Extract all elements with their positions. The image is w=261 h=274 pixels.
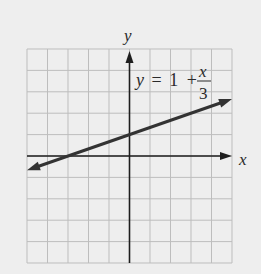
x-axis-label: x <box>238 150 247 169</box>
y-axis-label: y <box>122 26 132 45</box>
equation-constant: 1 <box>169 70 178 90</box>
equation-plus: + <box>187 70 197 90</box>
equation-equals: = <box>152 70 162 90</box>
equation-label: y = 1 + x 3 <box>134 62 211 103</box>
coordinate-plane: y x y = 1 + x 3 <box>0 0 261 274</box>
line-arrow-right-icon <box>218 99 232 108</box>
svg-text:y = 1 +: y = 1 + <box>134 70 197 90</box>
equation-lhs: y <box>134 70 144 90</box>
x-axis-arrow-icon <box>220 152 232 160</box>
equation-denominator: 3 <box>199 84 208 103</box>
line-arrow-left-icon <box>27 162 41 171</box>
equation-numerator: x <box>198 62 207 81</box>
y-axis-arrow-icon <box>126 51 134 63</box>
axes <box>27 51 232 263</box>
